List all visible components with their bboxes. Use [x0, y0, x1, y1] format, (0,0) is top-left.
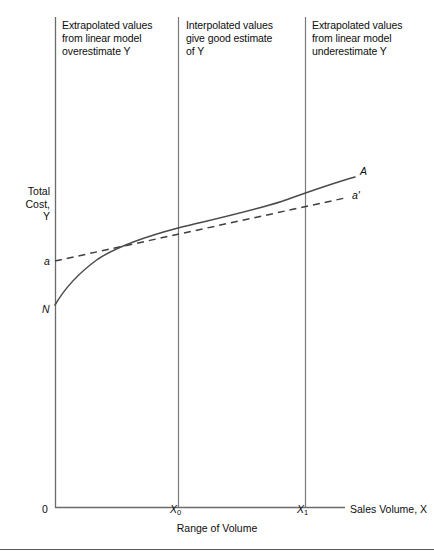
point-label-curve-end-a-upper: A	[360, 165, 367, 177]
x-axis-tick-x0-base: X	[170, 503, 177, 515]
x-axis-tick-x0-subscript: 0	[177, 508, 181, 517]
cost-volume-chart	[0, 0, 434, 558]
zone-note-interpolation: Interpolated values give good estimate o…	[186, 19, 298, 59]
x-axis-tick-x0: X0	[170, 503, 181, 517]
chart-background	[0, 0, 434, 558]
x-axis-tick-x1: X1	[297, 503, 308, 517]
x-axis-title: Sales Volume, X	[350, 503, 427, 516]
x-axis-tick-x1-subscript: 1	[304, 508, 308, 517]
point-label-line-end-a-prime: a'	[352, 189, 360, 201]
range-of-volume-label: Range of Volume	[0, 522, 434, 535]
bottom-divider-rule	[0, 549, 434, 550]
y-axis-title: Total Cost, Y	[4, 185, 50, 223]
zone-note-right-extrapolation: Extrapolated values from linear model un…	[312, 19, 430, 59]
x-axis-tick-origin: 0	[42, 503, 48, 515]
x-axis-tick-x1-base: X	[297, 503, 304, 515]
point-label-intercept-a: a	[44, 255, 50, 267]
zone-note-left-extrapolation: Extrapolated values from linear model ov…	[62, 19, 174, 59]
point-label-curve-start-n: N	[42, 303, 50, 315]
